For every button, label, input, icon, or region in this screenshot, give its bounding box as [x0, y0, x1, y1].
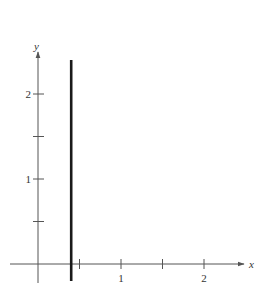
- y-tick-label: 1: [26, 173, 32, 185]
- x-tick-label: 2: [201, 272, 207, 284]
- chart: x y 12 12: [0, 0, 265, 305]
- x-ticks: 12: [80, 259, 207, 284]
- x-tick-label: 1: [118, 272, 124, 284]
- y-ticks: 12: [26, 88, 45, 222]
- x-axis-label: x: [248, 258, 254, 270]
- axes: x y: [10, 40, 254, 283]
- y-tick-label: 2: [26, 88, 32, 100]
- y-axis-label: y: [33, 40, 39, 52]
